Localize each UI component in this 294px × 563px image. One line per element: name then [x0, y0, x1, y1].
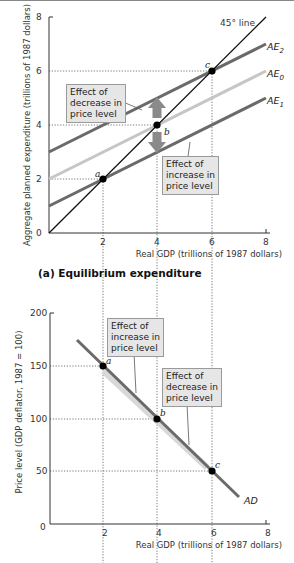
ytick-a-8: 8 — [36, 12, 42, 22]
point-c-label-b: c — [215, 460, 220, 470]
ae0-label: AE0 — [266, 68, 285, 82]
ytick-b-0: 0 — [40, 522, 46, 532]
point-b-label: b — [164, 127, 170, 137]
xtick-a-4: 4 — [154, 237, 160, 247]
panel-a-guides — [49, 71, 212, 563]
panel-a-caption: (a) Equilibrium expenditure — [38, 267, 202, 279]
xtick-a-8: 8 — [263, 237, 269, 247]
callout-leader-decrease-b — [187, 404, 189, 445]
ytick-b-50: 50 — [36, 466, 48, 476]
point-b-panel-a — [153, 121, 160, 128]
ytick-b-150: 150 — [30, 361, 47, 371]
callout-increase-price-level-a: Effect of increase in price level — [162, 156, 219, 195]
xtick-a-2: 2 — [100, 237, 106, 247]
xtick-a-6: 6 — [209, 237, 215, 247]
ytick-a-4: 4 — [36, 120, 42, 130]
ytick-b-200: 200 — [30, 308, 47, 318]
ytick-a-2: 2 — [36, 174, 42, 184]
xtick-b-4: 4 — [156, 528, 162, 538]
xtick-b-2: 2 — [102, 528, 108, 538]
callout-increase-price-level-b: Effect of increase in price level — [107, 318, 164, 357]
point-a-label: a — [95, 169, 100, 179]
ytick-a-6: 6 — [36, 66, 42, 76]
xtick-b-6: 6 — [211, 528, 217, 538]
ae1-label: AE1 — [266, 95, 284, 109]
chart-svg: a b c 45° line AE2 AE0 AE1 8 6 4 2 0 2 4… — [0, 0, 294, 563]
line-45-label: 45° line — [220, 18, 256, 28]
callout-decrease-price-level-b: Effect of decrease in price level — [162, 368, 222, 407]
point-c-label: c — [205, 60, 210, 70]
ad-label: AD — [243, 495, 258, 506]
y-axis-label-a: Aggregate planned expenditure (trillions… — [22, 4, 32, 246]
ae2-label: AE2 — [266, 41, 285, 55]
x-axis-label-b: Real GDP (trillions of 1987 dollars) — [136, 540, 282, 550]
x-axis-label-a: Real GDP (trillions of 1987 dollars) — [136, 249, 282, 259]
y-axis-label-b: Price level (GDP deflator, 1987 = 100) — [14, 331, 24, 494]
ytick-b-100: 100 — [30, 414, 47, 424]
point-a-panel-a — [99, 175, 106, 182]
callout-leader-increase-b — [134, 353, 136, 393]
xtick-b-8: 8 — [265, 528, 271, 538]
callout-decrease-price-level-a: Effect of decrease in price level — [66, 84, 126, 123]
ytick-a-0: 0 — [36, 228, 42, 238]
point-a-label-b: a — [106, 356, 111, 366]
point-b-label-b: b — [160, 408, 166, 418]
